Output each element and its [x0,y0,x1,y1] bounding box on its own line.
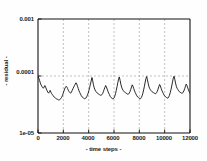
x-tick-label-2000: 2000 [53,135,73,141]
x-axis-title: - time steps - [0,146,207,152]
x-tick-label-12000: 12000 [179,135,201,141]
x-tick-label-6000: 6000 [103,135,123,141]
residual-convergence-chart: 0.001 0.0001 1e-05 0 2000 4000 6000 8000… [0,0,207,161]
y-tick-label-top: 0.001 [4,16,34,22]
gridlines [38,19,190,133]
x-tick-label-0: 0 [28,135,48,141]
y-axis-title: - residual - [3,44,9,98]
x-tick-label-4000: 4000 [78,135,98,141]
x-tick-label-8000: 8000 [129,135,149,141]
x-tick-label-10000: 10000 [153,135,175,141]
